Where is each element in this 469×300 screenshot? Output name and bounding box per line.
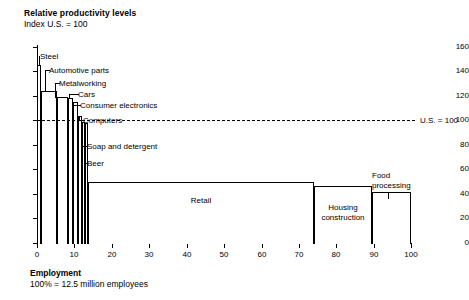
bar-automotive-parts[interactable] [41,91,57,244]
x-tick-label-60: 60 [252,251,272,259]
x-tick-mark-90 [374,244,375,248]
callout-label-cars: Cars [78,90,95,99]
y-tick-label-40: 40 [439,190,469,198]
callout-leader-v-cars [69,94,70,99]
y-tick-mark-160 [33,47,37,48]
callout-label-metalworking: Metalworking [59,79,106,88]
callout-label-automotive-parts: Automotive parts [49,66,109,75]
callout-label-consumer-electronics: Consumer electronics [80,101,157,110]
x-tick-label-70: 70 [289,251,309,259]
callout-label-steel: Steel [40,52,58,61]
callout-label-soap-and-detergent: Soap and detergent [87,142,157,151]
x-tick-mark-60 [262,244,263,248]
y-tick-label-160: 160 [439,43,469,51]
reference-line-label: U.S. = 100 [420,116,458,125]
x-tick-label-40: 40 [177,251,197,259]
callout-leader-h-beer [85,163,88,164]
food-processing-leader-tick [388,192,389,199]
callout-label-computers: Computers [83,116,122,125]
x-tick-label-100: 100 [401,251,421,259]
y-tick-label-60: 60 [439,165,469,173]
x-tick-label-30: 30 [139,251,159,259]
x-tick-mark-100 [411,244,412,248]
x-tick-mark-20 [112,244,113,248]
bar-food-processing[interactable] [372,192,411,244]
y-tick-label-20: 20 [439,214,469,222]
callout-leader-h-cars [69,94,79,95]
x-axis-note: 100% = 12.5 million employees [30,279,148,290]
x-tick-mark-0 [37,244,38,248]
callout-leader-v-metalworking [55,83,56,98]
callout-leader-h-soap-and-detergent [83,146,88,147]
page-title: Relative productivity levels [24,8,136,19]
callout-leader-steel [39,56,40,66]
x-tick-label-50: 50 [214,251,234,259]
y-tick-label-140: 140 [439,67,469,75]
x-axis-title: Employment [30,268,148,279]
x-tick-mark-30 [149,244,150,248]
chart-header: Relative productivity levels Index U.S. … [24,8,136,30]
x-tick-mark-40 [187,244,188,248]
y-tick-label-0: 0 [439,239,469,247]
bar-retail[interactable] [88,182,314,244]
x-tick-label-80: 80 [326,251,346,259]
chart-subtitle: Index U.S. = 100 [24,19,136,30]
callout-leader-v-computers [79,116,80,121]
callout-leader-h-consumer-electronics [74,105,81,106]
chart-footer: Employment 100% = 12.5 million employees [30,268,148,290]
x-tick-mark-10 [74,244,75,248]
x-tick-label-90: 90 [364,251,384,259]
x-tick-mark-50 [224,244,225,248]
bar-label-food-line1: Food [372,171,432,181]
x-tick-mark-80 [336,244,337,248]
y-tick-label-120: 120 [439,92,469,100]
bar-label-housing-line1: Housing [314,203,372,213]
x-tick-label-20: 20 [102,251,122,259]
bar-label-retail: Retail [88,196,314,206]
bar-label-food-line2: processing [372,181,432,191]
y-tick-label-80: 80 [439,141,469,149]
callout-leader-v-automotive-parts [45,70,46,92]
x-tick-label-0: 0 [27,251,47,259]
x-tick-label-10: 10 [64,251,84,259]
callout-label-beer: Beer [87,159,104,168]
x-tick-mark-70 [299,244,300,248]
bar-label-housing-line2: construction [314,213,372,223]
